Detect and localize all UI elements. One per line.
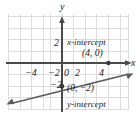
x-intercept-label: x-intercept	[67, 38, 106, 47]
y-intercept-point-label: (0, −2)	[67, 84, 94, 94]
x-tick-label-neg2: −2	[48, 68, 60, 78]
x-tick-label-4: 4	[99, 68, 104, 78]
line-arrow-left	[7, 99, 15, 105]
x-intercept-point-label: (4, 0)	[82, 49, 103, 59]
graph-figure: −4 −2 0 2 4 2 −2 y x x-intercept (4, 0) …	[0, 0, 140, 116]
y-intercept-label: y-intercept	[67, 100, 106, 109]
x-tick-label-2: 2	[75, 68, 80, 78]
x-axis-label: x	[131, 58, 135, 68]
y-axis-arrow	[59, 16, 65, 23]
x-tick-label-neg4: −4	[25, 68, 37, 78]
y-tick-label-neg2: −2	[50, 80, 62, 90]
x-tick-label-0: 0	[64, 68, 69, 78]
y-tick-label-2: 2	[54, 38, 59, 48]
line-arrow-right	[126, 73, 134, 79]
y-axis-label: y	[60, 2, 64, 12]
point-x-intercept	[106, 61, 111, 66]
x-axis	[6, 60, 132, 66]
